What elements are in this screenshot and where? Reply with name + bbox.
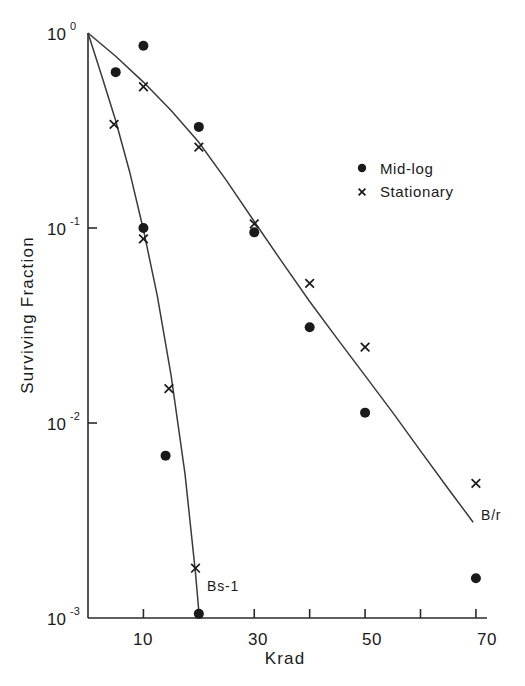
y-tick-label-1e-2-base: 10 — [47, 415, 66, 434]
y-tick-label-1e-2-exp: -2 — [70, 410, 80, 422]
y-axis-title: Surviving Fraction — [18, 236, 37, 394]
y-tick-label-1e-3-exp: -3 — [70, 605, 80, 617]
data-point-b-r-mid-log-2 — [249, 227, 259, 237]
x-axis-title: Krad — [265, 649, 306, 668]
y-tick-label-1e0-exp: 0 — [70, 20, 76, 32]
data-point-bs-1-mid-log-2 — [161, 451, 171, 461]
curve-label-br: B/r — [481, 507, 501, 523]
data-point-bs-1-mid-log-0 — [111, 67, 121, 77]
x-tick-label-10: 10 — [133, 630, 153, 649]
x-tick-label-70: 70 — [477, 630, 497, 649]
data-point-bs-1-mid-log-3 — [194, 609, 204, 619]
y-tick-label-1e-1-base: 10 — [47, 220, 66, 239]
legend-label-stationary: Stationary — [380, 183, 454, 200]
curve-label-bs1: Bs-1 — [207, 578, 239, 594]
legend-label-mid-log: Mid-log — [380, 160, 433, 177]
data-point-b-r-mid-log-3 — [305, 322, 315, 332]
data-point-b-r-mid-log-0 — [138, 41, 148, 51]
figure-container: 10 0 10 -1 10 -2 10 -3 10 30 50 70 — [0, 0, 525, 686]
y-tick-label-1e-1-exp: -1 — [70, 215, 80, 227]
chart-background — [0, 0, 525, 686]
survival-curve-chart: 10 0 10 -1 10 -2 10 -3 10 30 50 70 — [0, 0, 525, 686]
legend-marker-mid-log-icon — [358, 164, 366, 172]
y-tick-label-1e0-base: 10 — [47, 25, 66, 44]
x-tick-label-50: 50 — [362, 630, 382, 649]
data-point-b-r-mid-log-1 — [194, 122, 204, 132]
data-point-b-r-mid-log-4 — [360, 408, 370, 418]
data-point-b-r-mid-log-5 — [471, 573, 481, 583]
data-point-bs-1-mid-log-1 — [138, 223, 148, 233]
x-tick-label-30: 30 — [248, 630, 268, 649]
y-tick-label-1e-3-base: 10 — [47, 610, 66, 629]
